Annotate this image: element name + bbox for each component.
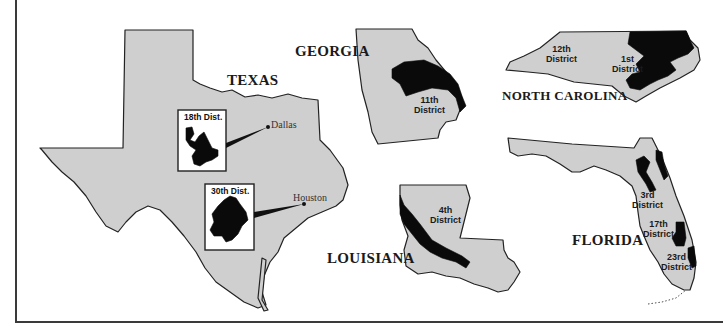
- district-label-nc-12th: 12th District: [546, 44, 577, 64]
- state-label-north-carolina: NORTH CAROLINA: [502, 88, 627, 104]
- state-label-louisiana: LOUISIANA: [327, 250, 415, 267]
- city-label-dallas: Dallas: [271, 119, 297, 130]
- state-label-texas: TEXAS: [227, 72, 279, 89]
- district-label-georgia-11th: 11th District: [414, 95, 445, 115]
- inset-label-18th-dist: 18th Dist.: [184, 112, 222, 122]
- district-label-florida-3rd: 3rd District: [632, 190, 663, 210]
- state-label-florida: FLORIDA: [572, 232, 643, 249]
- state-label-georgia: GEORGIA: [295, 43, 370, 60]
- district-label-florida-23rd: 23rd District: [661, 252, 692, 272]
- city-label-houston: Houston: [293, 192, 327, 203]
- district-label-nc-1st: 1st District: [612, 54, 643, 74]
- inset-label-30th-dist: 30th Dist.: [211, 186, 249, 196]
- district-label-louisiana-4th: 4th District: [430, 205, 461, 225]
- district-label-florida-17th: 17th District: [643, 219, 674, 239]
- florida-keys: [648, 290, 686, 304]
- dallas-dot: [266, 125, 270, 129]
